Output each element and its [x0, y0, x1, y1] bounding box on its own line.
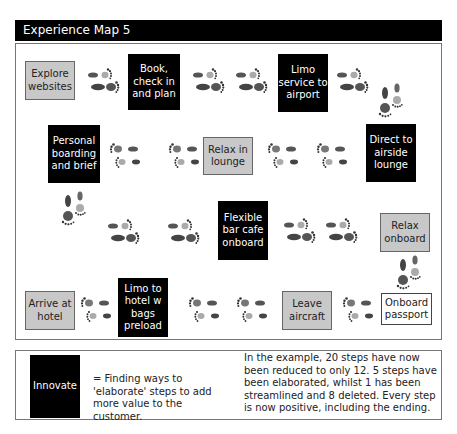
step-personal-boarding-brief: Personal boarding and brief	[48, 125, 100, 183]
footprints-icon	[232, 67, 268, 95]
footprints-icon	[189, 67, 225, 95]
footprints-down-icon	[375, 83, 405, 119]
legend-summary: In the example, 20 steps have now been r…	[244, 352, 440, 415]
step-explore-websites: Explore websites	[25, 61, 75, 100]
map-title: Experience Map 5	[15, 20, 442, 41]
footprints-icon	[185, 295, 221, 323]
footprints-icon	[322, 217, 358, 245]
step-limo-service-to-airport: Limo service to airport	[278, 54, 328, 112]
step-arrive-at-hotel: Arrive at hotel	[25, 291, 75, 330]
step-onboard-passport: Onboard passport	[381, 293, 432, 325]
footprints-down-icon	[393, 255, 423, 291]
step-direct-to-airside-lounge: Direct to airside lounge	[366, 124, 416, 182]
footprints-icon	[339, 295, 375, 323]
footprints-down-icon	[58, 191, 88, 227]
footprints-icon	[313, 141, 349, 169]
step-relax-onboard: Relax onboard	[380, 213, 430, 252]
footprints-icon	[164, 218, 200, 246]
footprints-icon	[77, 295, 113, 323]
step-flexible-bar-cafe-onboard: Flexible bar cafe onboard	[218, 201, 268, 260]
footprints-icon	[264, 141, 300, 169]
footprints-icon	[106, 141, 142, 169]
footprints-icon	[333, 67, 369, 95]
footprints-icon	[280, 217, 316, 245]
footprints-icon	[233, 295, 269, 323]
step-leave-aircraft: Leave aircraft	[282, 291, 332, 330]
legend-definition: = Finding ways to 'elaborate' steps to a…	[93, 373, 233, 423]
footprints-icon	[84, 67, 120, 95]
step-relax-in-lounge: Relax in lounge	[203, 137, 253, 175]
legend-innovate-swatch: Innovate	[30, 355, 80, 418]
step-book-check-in-plan: Book, check in and plan	[128, 54, 180, 110]
step-limo-to-hotel-bags-preload: Limo to hotel w bags preload	[118, 278, 168, 337]
footprints-icon	[104, 218, 140, 246]
footprints-icon	[165, 141, 201, 169]
